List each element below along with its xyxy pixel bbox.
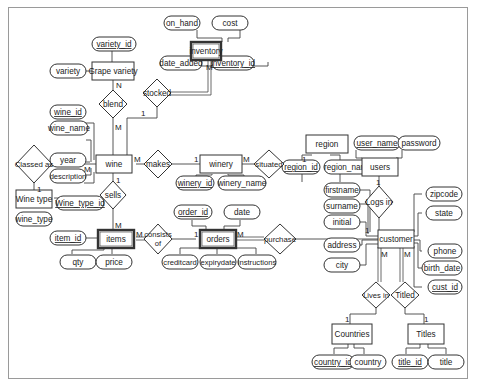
svg-text:wine_id: wine_id (53, 108, 82, 117)
svg-text:Classed as: Classed as (15, 160, 54, 169)
svg-text:firstname: firstname (325, 186, 359, 195)
svg-text:Lives in: Lives in (363, 291, 389, 300)
relationship-logs-in: Logs in (365, 186, 393, 218)
svg-text:birth_date: birth_date (424, 264, 461, 273)
attribute-city: city (324, 258, 360, 272)
attribute-variety-id: variety_id (92, 37, 136, 51)
svg-text:1: 1 (116, 176, 121, 185)
svg-text:title: title (440, 358, 453, 367)
relationship-lives-in: Lives in (362, 282, 390, 308)
svg-text:surname: surname (326, 202, 358, 211)
svg-text:1: 1 (37, 185, 42, 194)
svg-text:1: 1 (194, 155, 199, 164)
entity-items: items (98, 230, 134, 248)
svg-text:M: M (115, 123, 122, 132)
svg-text:1: 1 (141, 109, 146, 118)
svg-text:initial: initial (333, 218, 352, 227)
svg-text:M: M (206, 63, 213, 72)
svg-text:makes: makes (146, 160, 170, 169)
attribute-zipcode: zipcode (426, 187, 462, 201)
svg-text:winery_name: winery_name (217, 179, 267, 188)
svg-text:variety_id: variety_id (96, 40, 131, 49)
attribute-region-id: region_id (282, 160, 320, 174)
svg-text:wine_type: wine_type (15, 215, 53, 224)
svg-text:description: description (50, 172, 87, 181)
svg-text:price: price (105, 258, 123, 267)
svg-text:M: M (243, 155, 250, 164)
attribute-initial: initial (324, 215, 360, 229)
svg-text:of: of (155, 239, 162, 248)
relationship-makes: makes (144, 150, 172, 178)
attribute-order-id: order_id (174, 205, 212, 219)
svg-text:title_id: title_id (398, 358, 422, 367)
attribute-on-hand: on_hand (164, 16, 200, 30)
entity-winery: winery (200, 155, 242, 173)
entity-countries: Countries (332, 324, 372, 344)
attribute-qty: qty (60, 255, 96, 269)
attribute-description: description (50, 169, 87, 183)
svg-text:M: M (404, 250, 411, 259)
attribute-price: price (96, 255, 132, 269)
attribute-item-id: item_id (50, 231, 86, 245)
svg-text:1: 1 (365, 226, 370, 235)
attribute-country-id: country_id (312, 355, 354, 369)
svg-text:user_name: user_name (357, 139, 398, 148)
svg-text:region_id: region_id (284, 163, 318, 172)
svg-text:users: users (370, 163, 390, 172)
relationship-stocked: stocked (143, 79, 172, 107)
attribute-wine-name: wine_name (47, 121, 90, 135)
attribute-instructions: instructions (238, 255, 277, 269)
entity-orders: orders (200, 230, 236, 248)
svg-text:purchase: purchase (264, 235, 296, 244)
attribute-creditcard: creditcard (162, 255, 198, 269)
svg-text:wine: wine (105, 160, 123, 169)
svg-text:year: year (60, 156, 76, 165)
svg-text:inventory: inventory (189, 47, 223, 56)
attribute-winery-id: winery_id (176, 176, 214, 190)
svg-text:region: region (316, 140, 339, 149)
attribute-state: state (426, 206, 462, 220)
attribute-cost: cost (212, 16, 248, 30)
attribute-variety: variety (50, 64, 86, 78)
svg-text:1: 1 (345, 315, 350, 324)
er-diagram: on_hand cost date_added inventory_id var… (0, 0, 480, 386)
svg-text:expirydate: expirydate (200, 258, 235, 267)
svg-text:item_id: item_id (55, 234, 82, 243)
attribute-user-name: user_name (354, 136, 400, 150)
svg-text:sells: sells (105, 191, 121, 200)
svg-text:M: M (136, 230, 143, 239)
svg-text:Wine_type_id: Wine_type_id (55, 199, 105, 208)
relationship-blend: blend (99, 90, 127, 118)
attribute-surname: surname (324, 199, 360, 213)
svg-text:wine_name: wine_name (47, 124, 90, 133)
svg-text:consists: consists (144, 230, 172, 239)
attribute-phone: phone (428, 244, 462, 258)
svg-text:state: state (435, 209, 453, 218)
relationship-classed-as: Classed as (15, 145, 54, 183)
svg-text:items: items (106, 235, 126, 244)
svg-text:customer: customer (379, 235, 413, 244)
attribute-cust-id: cust_id (428, 280, 462, 294)
svg-text:winery: winery (208, 160, 234, 169)
svg-text:M: M (115, 221, 122, 230)
relationship-purchase: purchase (264, 224, 296, 254)
svg-text:M: M (134, 155, 141, 164)
svg-text:qty: qty (73, 258, 85, 267)
svg-text:N: N (116, 81, 122, 90)
relationship-situated: situated (254, 150, 284, 178)
attribute-password: password (398, 136, 440, 150)
entity-grape-variety: Grape variety (88, 62, 138, 80)
svg-text:1: 1 (194, 230, 199, 239)
svg-text:Wine type: Wine type (16, 195, 53, 204)
svg-text:instructions: instructions (238, 258, 277, 267)
svg-text:country: country (355, 358, 383, 367)
entity-customer: customer (378, 230, 414, 248)
attribute-wine-type-id: Wine_type_id (55, 196, 105, 210)
attribute-address: address (324, 238, 360, 252)
svg-text:zipcode: zipcode (430, 190, 459, 199)
relationship-consists-of: consists of (144, 224, 172, 254)
svg-text:Countries: Countries (334, 330, 369, 339)
attribute-title-id: title_id (392, 355, 428, 369)
svg-text:cust_id: cust_id (432, 283, 458, 292)
svg-text:M: M (237, 230, 244, 239)
